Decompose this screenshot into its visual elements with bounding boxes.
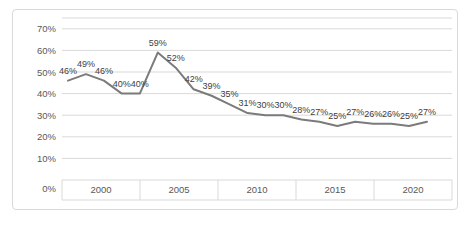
data-label: 25% [328,111,346,121]
data-label: 49% [77,59,95,69]
y-axis-label: 0% [42,183,56,194]
y-axis-label: 20% [37,131,57,142]
y-axis-label: 10% [37,153,57,164]
data-label: 31% [238,98,256,108]
line-chart: 70%60%50%40%30%20%10%0%20002005201020152… [0,0,467,225]
data-label: 40% [131,79,149,89]
data-label: 46% [59,66,77,76]
data-label: 39% [203,81,221,91]
data-label: 52% [167,53,185,63]
x-axis-label: 2005 [168,184,189,195]
data-label: 40% [113,79,131,89]
data-label: 27% [346,107,364,117]
x-axis-label: 2000 [90,184,111,195]
x-axis-label: 2010 [246,184,267,195]
data-label: 25% [400,111,418,121]
data-label: 35% [221,89,239,99]
data-label: 30% [274,100,292,110]
x-axis-label: 2015 [324,184,345,195]
data-label: 30% [256,100,274,110]
data-label: 26% [364,109,382,119]
y-axis-label: 70% [37,23,57,34]
data-label: 28% [292,105,310,115]
y-axis-label: 30% [37,110,57,121]
y-axis-label: 50% [37,67,57,78]
y-axis-label: 60% [37,45,57,56]
data-label: 59% [149,38,167,48]
data-label: 27% [418,107,436,117]
data-label: 26% [382,109,400,119]
data-label: 27% [310,107,328,117]
x-axis-label: 2020 [402,184,423,195]
data-label: 42% [185,74,203,84]
chart: 70%60%50%40%30%20%10%0%20002005201020152… [0,0,467,225]
data-label: 46% [95,66,113,76]
y-axis-label: 40% [37,88,57,99]
